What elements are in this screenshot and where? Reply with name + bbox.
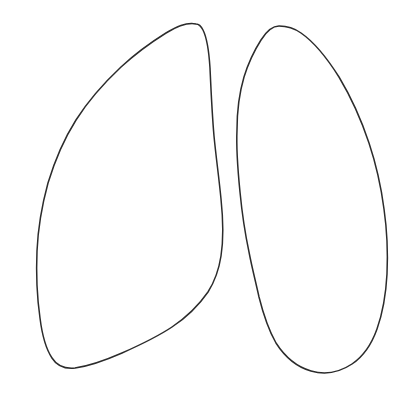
lungs-illustration: [0, 0, 417, 396]
lungs-drawing-canvas: [0, 0, 417, 396]
